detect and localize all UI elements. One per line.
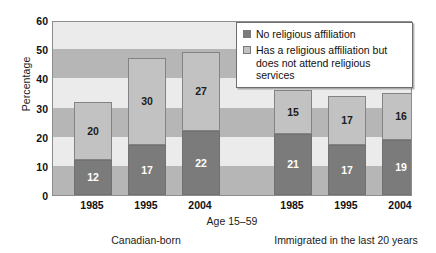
legend-item[interactable]: No religious affiliation — [243, 28, 406, 41]
bar-segment-no-affiliation[interactable]: 21 — [274, 134, 312, 195]
bar-segment-has-affiliation[interactable]: 17 — [328, 96, 366, 146]
bar-stack[interactable]: 2227 — [182, 52, 220, 195]
bar-segment-no-affiliation[interactable]: 17 — [328, 145, 366, 195]
x-axis-title: Age 15–59 — [52, 215, 412, 227]
bar-value-label: 15 — [287, 107, 299, 118]
bar-value-label: 17 — [341, 165, 353, 176]
legend-item-label: Has a religious affiliation but does not… — [256, 44, 406, 82]
y-axis-tick-label: 0 — [22, 190, 48, 202]
group-label: Canadian-born — [111, 234, 180, 246]
bar-segment-has-affiliation[interactable]: 15 — [274, 90, 312, 134]
bar-stack[interactable]: 1730 — [128, 58, 166, 195]
bar-value-label: 16 — [395, 111, 407, 122]
bar-segment-no-affiliation[interactable]: 17 — [128, 145, 166, 195]
chart-figure: Percentage 6050403020100 122017302227211… — [0, 0, 436, 253]
group-labels: Canadian-bornImmigrated in the last 20 y… — [0, 234, 436, 248]
bar-segment-no-affiliation[interactable]: 12 — [74, 160, 112, 195]
bar-segment-no-affiliation[interactable]: 19 — [382, 140, 412, 195]
x-axis-tick-label: 1995 — [134, 199, 157, 211]
y-axis-tick-label: 60 — [22, 15, 48, 27]
x-axis-tick-labels: 198519952004198519952004 — [52, 199, 412, 213]
x-axis-tick-label: 1995 — [334, 199, 357, 211]
bar-segment-has-affiliation[interactable]: 16 — [382, 93, 412, 140]
y-axis-tick-label: 50 — [22, 44, 48, 56]
y-axis-tick-label: 40 — [22, 73, 48, 85]
bar-value-label: 30 — [141, 96, 153, 107]
bar-value-label: 17 — [141, 165, 153, 176]
bar-value-label: 12 — [87, 172, 99, 183]
y-axis-tick-labels: 6050403020100 — [22, 21, 48, 196]
y-axis-tick-label: 20 — [22, 132, 48, 144]
bar-stack[interactable]: 1717 — [328, 96, 366, 195]
bar-value-label: 20 — [87, 126, 99, 137]
bar-value-label: 22 — [195, 158, 207, 169]
bar-value-label: 19 — [395, 162, 407, 173]
x-axis-tick-label: 2004 — [188, 199, 211, 211]
x-axis-tick-label: 2004 — [388, 199, 411, 211]
x-axis-tick-label: 1985 — [80, 199, 103, 211]
bar-segment-has-affiliation[interactable]: 20 — [74, 102, 112, 160]
x-axis-tick-label: 1985 — [280, 199, 303, 211]
bar-value-label: 21 — [287, 159, 299, 170]
y-axis-tick-label: 30 — [22, 103, 48, 115]
y-axis-tick-label: 10 — [22, 161, 48, 173]
legend-swatch-has-affiliation — [243, 46, 251, 54]
group-label: Immigrated in the last 20 years — [274, 234, 418, 246]
bar-stack[interactable]: 1220 — [74, 102, 112, 195]
bar-segment-has-affiliation[interactable]: 27 — [182, 52, 220, 131]
bar-stack[interactable]: 1916 — [382, 93, 412, 195]
legend-swatch-no-affiliation — [243, 30, 251, 38]
legend-item[interactable]: Has a religious affiliation but does not… — [243, 44, 406, 82]
bar-stack[interactable]: 2115 — [274, 90, 312, 195]
bar-value-label: 17 — [341, 115, 353, 126]
bar-value-label: 27 — [195, 86, 207, 97]
chart-legend: No religious affiliationHas a religious … — [236, 22, 413, 88]
legend-item-label: No religious affiliation — [256, 28, 356, 41]
bar-segment-has-affiliation[interactable]: 30 — [128, 58, 166, 146]
bar-segment-no-affiliation[interactable]: 22 — [182, 131, 220, 195]
